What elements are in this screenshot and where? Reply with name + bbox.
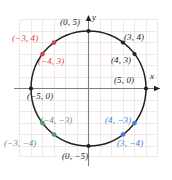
point-neg3-neg4 xyxy=(52,132,57,137)
label-point-3-neg4: (3, −4) xyxy=(117,139,143,148)
label-point-neg3-4: (−3, 4) xyxy=(12,34,38,43)
label-point-4-neg3: (4, −3) xyxy=(105,116,131,125)
point-0-5 xyxy=(86,29,90,33)
x-axis-arrow xyxy=(154,86,160,91)
label-point-neg3-neg4: (−3, −4) xyxy=(4,139,36,148)
label-point-4-3: (4, 3) xyxy=(111,56,131,65)
point-neg5-0 xyxy=(29,86,33,90)
point-3-neg4 xyxy=(121,132,126,137)
y-axis-label: y xyxy=(92,13,96,22)
point-4-neg3 xyxy=(132,121,137,126)
x-axis-label: x xyxy=(150,72,154,81)
label-point-0-5: (0, 5) xyxy=(60,18,80,27)
label-point-neg5-0: (−5, 0) xyxy=(27,92,53,101)
label-point-5-0: (5, 0) xyxy=(114,76,134,85)
label-point-neg4-neg3: (−4, −3) xyxy=(40,116,72,125)
coordinate-plane-figure: x y (0, 5) (3, 4) (4, 3) (5, 0) (4, −3) … xyxy=(0,0,172,180)
point-neg3-4 xyxy=(52,40,57,45)
point-4-3 xyxy=(132,52,136,56)
label-point-0-neg5: (0, −5) xyxy=(62,152,88,161)
label-point-3-4: (3, 4) xyxy=(124,33,144,42)
point-0-neg5 xyxy=(86,144,90,148)
label-point-neg4-3: (−4, 3) xyxy=(38,57,64,66)
point-5-0 xyxy=(144,86,148,90)
y-axis-arrow xyxy=(86,15,91,21)
